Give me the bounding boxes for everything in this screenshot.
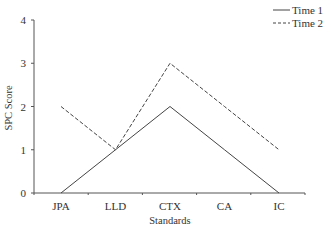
x-tick-label: JPA (52, 200, 69, 212)
x-axis-title: Standards (149, 215, 190, 226)
x-tick-label: CA (217, 200, 232, 212)
x-tick-label: CTX (159, 200, 181, 212)
y-tick-label: 1 (21, 144, 27, 156)
series-lines (61, 63, 279, 193)
series-line-time-1 (61, 107, 279, 194)
y-tick-label: 2 (21, 101, 27, 113)
legend-label: Time 1 (292, 4, 323, 16)
y-tick-label: 3 (21, 57, 27, 69)
y-axis-title: SPC Score (3, 85, 14, 131)
x-tick-label: IC (274, 200, 285, 212)
x-tick-label: LLD (105, 200, 126, 212)
y-tick-label: 4 (21, 14, 27, 26)
y-ticks: 01234 (21, 14, 35, 199)
legend: Time 1Time 2 (273, 4, 323, 29)
legend-label: Time 2 (292, 17, 323, 29)
x-ticks: JPALLDCTXCAIC (34, 193, 305, 212)
y-tick-label: 0 (21, 187, 27, 199)
line-chart: 01234 JPALLDCTXCAIC SPC Score Standards … (0, 0, 331, 234)
